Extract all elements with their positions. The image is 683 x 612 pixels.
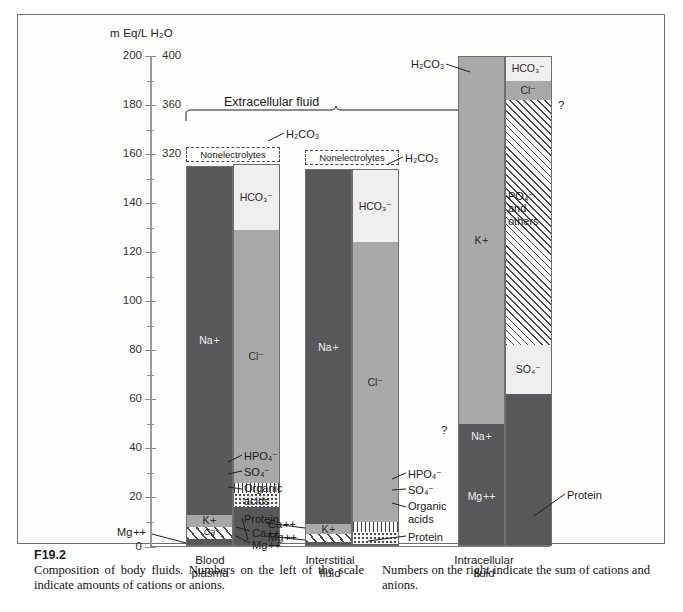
axis-tick-major xyxy=(145,105,156,106)
bar-segment-label: Cl⁻ xyxy=(368,377,384,388)
axis-tick-minor xyxy=(147,375,154,376)
if-ca-label: Ca ++ xyxy=(268,518,296,530)
axis-tick-major xyxy=(145,448,156,449)
bar-segment xyxy=(186,539,233,546)
bar-segment-label: K + xyxy=(321,524,335,534)
axis-tick-minor xyxy=(147,326,154,327)
axis-label-left: 160 xyxy=(102,148,142,160)
caption-left: Composition of body fluids. Numbers on t… xyxy=(34,563,364,594)
bp-mg-left-label: Mg ++ xyxy=(117,526,146,538)
bar-segment: K + xyxy=(186,515,233,527)
axis-label-left: 20 xyxy=(102,491,142,503)
bar-segment-label: K + xyxy=(202,515,216,526)
axis-tick-minor xyxy=(147,473,154,474)
if-organic-label: Organic xyxy=(408,500,447,512)
axis-label-right: 400 xyxy=(162,50,202,62)
axis-tick-major xyxy=(145,154,156,155)
axis-label-left: 180 xyxy=(102,99,142,111)
ic-protein-label: Protein xyxy=(567,489,602,501)
bar-segment-label: Na + xyxy=(318,342,338,353)
interstitial-cation-column: Na +K + xyxy=(305,169,352,547)
bp-hpo4-label: HPO₄⁻ xyxy=(244,450,278,462)
axis-label-left: 120 xyxy=(102,246,142,258)
bar-segment-label: Na + xyxy=(199,335,219,346)
blood-plasma-cation-column: Na +K +Ca xyxy=(186,166,233,546)
bar-segment: HCO₃⁻ xyxy=(352,169,399,243)
axis-label-left: 200 xyxy=(102,50,142,62)
axis-tick-minor xyxy=(147,424,154,425)
if-hpo4-label: HPO₄⁻ xyxy=(408,468,442,480)
bar-segment: SO₄⁻ xyxy=(505,345,552,394)
bar-segment-label: Ca xyxy=(204,528,216,537)
bar-segment: Cl⁻ xyxy=(233,230,280,483)
bar-segment xyxy=(505,394,552,546)
axis-label-left: 60 xyxy=(102,393,142,405)
axis-tick-minor xyxy=(147,228,154,229)
bar-segment-label: Cl⁻ xyxy=(521,85,537,96)
axis-tick-minor xyxy=(147,277,154,278)
bar-segment xyxy=(305,542,352,547)
unit-header: m Eq/L H₂O xyxy=(110,27,173,39)
interstitial-anion-column: HCO₃⁻Cl⁻ xyxy=(352,169,399,547)
bar-segment: Na + xyxy=(186,166,233,514)
if-h2co3-label: H₂CO₃ xyxy=(405,152,438,164)
figure-caption: F19.2 Composition of body fluids. Number… xyxy=(34,548,654,594)
bar-segment-label: HCO₃⁻ xyxy=(512,63,546,74)
axis-label-left: 40 xyxy=(102,442,142,454)
bp-h2co3-label: H₂CO₃ xyxy=(286,128,319,140)
bar-segment: Mg ++ xyxy=(458,448,505,546)
bar-segment: K + xyxy=(458,56,505,424)
bar-segment xyxy=(352,522,399,532)
bar-segment-label: Cl⁻ xyxy=(249,351,265,362)
axis-tick-major xyxy=(145,497,156,498)
if-acids-label: acids xyxy=(408,513,434,525)
extracellular-fluid-title: Extracellular fluid xyxy=(224,95,319,109)
bar-segment-label: Na + xyxy=(471,431,491,442)
axis-tick-major xyxy=(145,301,156,302)
if-so4-label: SO₄⁻ xyxy=(408,484,434,496)
bar-segment xyxy=(352,532,399,544)
axis-tick-major xyxy=(145,350,156,351)
axis-tick-minor xyxy=(147,179,154,180)
axis-tick-minor xyxy=(147,130,154,131)
bar-segment: Cl⁻ xyxy=(505,81,552,101)
if-mg-label: Mg ++ xyxy=(268,531,297,543)
bar-segment: Ca xyxy=(186,527,233,539)
bar-segment xyxy=(305,534,352,541)
intracellular-anion-column: HCO₃⁻Cl⁻SO₄⁻ xyxy=(505,56,552,547)
intracellular-cation-column: K +Na +Mg ++ xyxy=(458,56,505,547)
axis-tick-minor xyxy=(147,522,154,523)
bar-segment-label: Mg ++ xyxy=(468,491,496,502)
axis-tick-major xyxy=(145,252,156,253)
bar-segment xyxy=(352,544,399,546)
ic-anion-question-mark: ? xyxy=(558,99,564,111)
ic-h2co3-label: H₂CO₃ xyxy=(411,58,444,70)
bar-segment: Na + xyxy=(458,424,505,449)
ic-po4-label: PO₄⁻ and others xyxy=(508,190,548,227)
axis-label-left: 80 xyxy=(102,344,142,356)
axis-tick-major xyxy=(145,203,156,204)
caption-right: Numbers on the right indicate the sum of… xyxy=(382,563,650,594)
bar-segment: Na + xyxy=(305,169,352,525)
bar-segment-label: SO₄⁻ xyxy=(516,364,541,375)
bp-acids-label: acids xyxy=(244,495,270,507)
axis-label-left: 140 xyxy=(102,197,142,209)
bar-segment: K + xyxy=(305,524,352,534)
bar-segment: Cl⁻ xyxy=(352,242,399,522)
bar-segment: HCO₃⁻ xyxy=(505,56,552,81)
bp-organic-label: Organic xyxy=(244,482,283,494)
axis-label-right: 360 xyxy=(162,99,202,111)
bp-so4-label: SO₄⁻ xyxy=(244,466,270,478)
axis-tick-minor xyxy=(147,81,154,82)
blood-plasma-nonelectrolytes: Nonelectrolytes xyxy=(186,147,280,162)
bar-segment-label: HCO₃⁻ xyxy=(240,192,274,203)
axis-tick-major xyxy=(145,399,156,400)
if-protein-label: Protein xyxy=(408,531,443,543)
bar-segment: HCO₃⁻ xyxy=(233,164,280,230)
bar-segment-label: HCO₃⁻ xyxy=(359,201,393,212)
ic-cation-question-mark: ? xyxy=(441,424,447,436)
figure-number: F19.2 xyxy=(34,548,654,562)
axis-tick-major xyxy=(145,56,156,57)
y-axis: 020406080100120140160320180360200400 xyxy=(150,56,152,547)
axis-label-left: 100 xyxy=(102,295,142,307)
